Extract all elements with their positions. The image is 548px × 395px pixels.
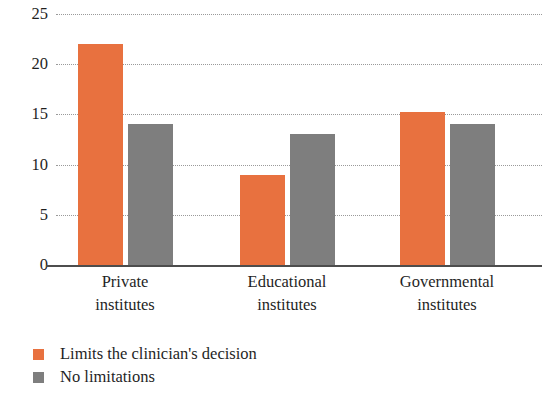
y-tick-label-5: 5 [14, 207, 48, 224]
x-axis-category-labels: PrivateinstitutesEducationalinstitutesGo… [46, 271, 542, 327]
bar-limits-1 [240, 175, 285, 265]
category-label-line: Educational [197, 271, 377, 294]
y-axis-tick-labels: 0510152025 [10, 14, 48, 265]
category-label-line: institutes [197, 294, 377, 317]
legend-swatch-icon [33, 372, 44, 383]
bar-no-limitations-2 [450, 124, 495, 265]
category-label-line: institutes [357, 294, 537, 317]
y-tick-label-20: 20 [14, 56, 48, 73]
legend-item-label: Limits the clinician's decision [60, 346, 257, 363]
category-label-line: Private [35, 271, 215, 294]
bar-limits-0 [78, 44, 123, 265]
bar-no-limitations-0 [128, 124, 173, 265]
bar-no-limitations-1 [290, 134, 335, 265]
bar-chart-figure: 0510152025 PrivateinstitutesEducationali… [0, 0, 548, 395]
bar-limits-2 [400, 112, 445, 265]
legend-swatch-icon [33, 349, 44, 360]
x-axis-line [46, 265, 542, 267]
category-label-line: institutes [35, 294, 215, 317]
legend-item-label: No limitations [60, 369, 155, 386]
y-tick-label-10: 10 [14, 157, 48, 174]
category-label-line: Governmental [357, 271, 537, 294]
y-tick-label-25: 25 [14, 6, 48, 23]
category-label-2: Governmentalinstitutes [357, 271, 537, 317]
y-tick-label-15: 15 [14, 106, 48, 123]
legend-item-1[interactable]: No limitations [33, 366, 257, 389]
plot-bars [56, 14, 542, 265]
category-label-1: Educationalinstitutes [197, 271, 377, 317]
chart-legend: Limits the clinician's decisionNo limita… [33, 343, 257, 389]
category-label-0: Privateinstitutes [35, 271, 215, 317]
legend-item-0[interactable]: Limits the clinician's decision [33, 343, 257, 366]
